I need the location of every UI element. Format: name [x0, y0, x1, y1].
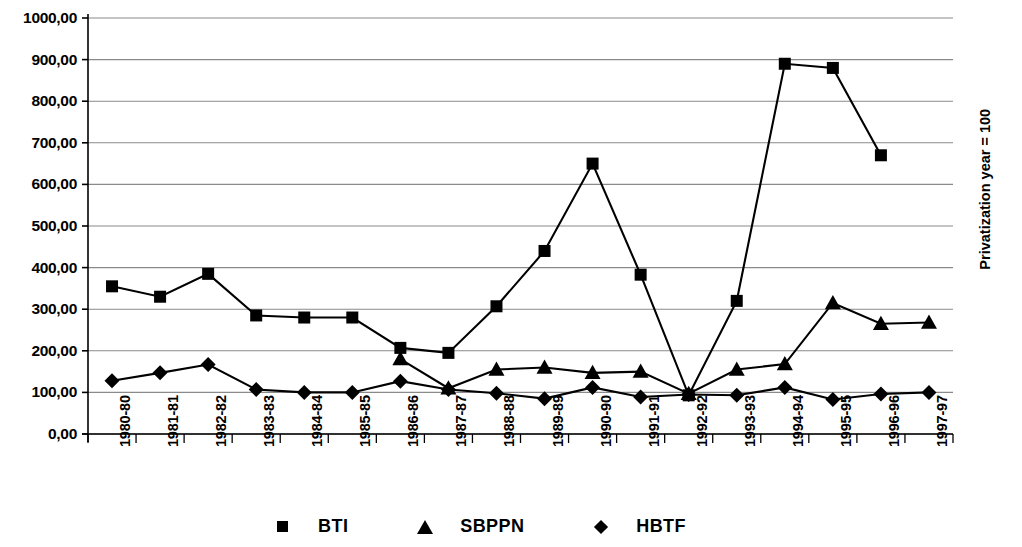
axes [82, 14, 953, 442]
x-tick-label: 1987-87 [454, 395, 469, 447]
marker-square [154, 291, 166, 303]
x-tick-label: 1996-96 [887, 395, 902, 447]
marker-square [587, 158, 599, 170]
marker-square [731, 295, 743, 307]
y-tick-label: 500,00 [31, 218, 77, 234]
marker-square [250, 309, 262, 321]
x-tick-label: 1993-93 [743, 395, 758, 447]
series-line-bti [112, 64, 881, 396]
marker-square [779, 58, 791, 70]
x-tick-label: 1988-88 [502, 395, 517, 447]
x-tick-label: 1995-95 [839, 395, 854, 447]
x-tick-label: 1986-86 [406, 395, 421, 447]
marker-diamond [393, 374, 408, 389]
legend-entry-hbtf[interactable]: HBTF [592, 516, 686, 537]
marker-diamond [201, 357, 216, 372]
marker-diamond [153, 365, 168, 380]
marker-square [635, 269, 647, 281]
marker-square [202, 268, 214, 280]
x-tick-label: 1981-81 [166, 395, 181, 447]
marker-diamond [105, 373, 120, 388]
marker-square [442, 347, 454, 359]
y-tick-label: 900,00 [31, 52, 77, 68]
x-tick-label: 1991-91 [647, 395, 662, 447]
y-tick-label: 0,00 [48, 426, 77, 442]
series-line-hbtf [112, 365, 929, 400]
x-tick-label: 1980-80 [118, 395, 133, 447]
chart-figure: 0,00100,00200,00300,00400,00500,00600,00… [0, 0, 1022, 547]
x-tick-label: 1982-82 [214, 395, 229, 447]
y-tick-label: 400,00 [31, 260, 77, 276]
legend-label: BTI [318, 516, 348, 537]
x-tick-label: 1983-83 [262, 395, 277, 447]
y-axis-title: Privatization year = 100 [978, 94, 993, 284]
x-tick-label: 1984-84 [310, 395, 325, 447]
y-tick-label: 300,00 [31, 301, 77, 317]
legend-label: SBPPN [460, 516, 524, 537]
legend-entry-sbppn[interactable]: SBPPN [416, 516, 524, 537]
series-line-sbppn [400, 303, 929, 394]
series-lines [112, 64, 929, 400]
marker-square [875, 149, 887, 161]
legend-entry-bti[interactable]: BTI [274, 516, 348, 537]
x-tick-label: 1997-97 [935, 395, 950, 447]
legend-marker-square-icon [274, 518, 292, 536]
marker-triangle [537, 359, 553, 373]
x-tick-label: 1989-89 [551, 395, 566, 447]
y-tick-label: 200,00 [31, 343, 77, 359]
marker-square [298, 312, 310, 324]
x-tick-label: 1990-90 [599, 395, 614, 447]
y-tick-label: 700,00 [31, 135, 77, 151]
y-tick-label: 600,00 [31, 176, 77, 192]
marker-square [346, 312, 358, 324]
series-markers [105, 58, 937, 407]
x-tick-label: 1992-92 [695, 395, 710, 447]
marker-square [490, 300, 502, 312]
legend-marker-diamond-icon [592, 518, 610, 536]
chart-legend: BTISBPPNHBTF [0, 516, 960, 537]
y-tick-label: 800,00 [31, 93, 77, 109]
y-tick-label: 1000,00 [23, 10, 77, 26]
legend-marker-triangle-icon [416, 518, 434, 536]
marker-triangle [825, 295, 841, 309]
y-tick-label: 100,00 [31, 384, 77, 400]
legend-label: HBTF [636, 516, 686, 537]
marker-square [539, 245, 551, 257]
y-axis-ticks [82, 18, 88, 434]
gridlines [88, 18, 953, 434]
marker-square [106, 280, 118, 292]
marker-square [827, 62, 839, 74]
x-tick-label: 1985-85 [358, 395, 373, 447]
x-tick-label: 1994-94 [791, 395, 806, 447]
chart-plot-area [0, 0, 1022, 547]
